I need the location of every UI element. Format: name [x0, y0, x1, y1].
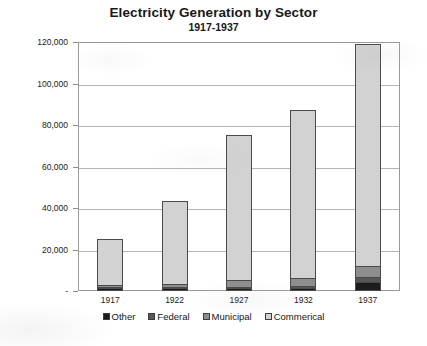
y-axis-tick-labels: -20,00040,00060,00080,000100,000120,000: [0, 42, 78, 291]
legend-item-other[interactable]: Other: [103, 311, 136, 322]
chart-subtitle: 1917-1937: [0, 21, 427, 33]
legend-label: Other: [112, 311, 136, 322]
y-axis-tick-label: 60,000: [42, 162, 68, 172]
y-axis-tick-label: -: [65, 286, 68, 296]
chart-legend: OtherFederalMunicipalCommerical: [0, 311, 427, 322]
stacked-bar[interactable]: [97, 239, 123, 291]
bar-segment-other[interactable]: [98, 289, 122, 290]
bar-segment-other[interactable]: [291, 289, 315, 290]
bar-segment-commerical[interactable]: [291, 111, 315, 278]
bars-layer: [78, 42, 400, 291]
x-axis-tick-labels: 19171922192719321937: [78, 295, 400, 309]
legend-swatch-icon: [265, 313, 272, 320]
x-axis-tick-label: 1922: [165, 295, 184, 305]
chart-figure: Electricity Generation by Sector 1917-19…: [0, 0, 427, 346]
bar-group[interactable]: [355, 42, 381, 291]
y-axis-tick-label: 80,000: [42, 120, 68, 130]
y-axis-tick-label: 120,000: [37, 37, 68, 47]
legend-item-municipal[interactable]: Municipal: [203, 311, 252, 322]
bar-group[interactable]: [97, 42, 123, 291]
legend-label: Municipal: [212, 311, 252, 322]
bar-segment-municipal[interactable]: [227, 281, 251, 288]
x-axis-tick-label: 1937: [358, 295, 377, 305]
legend-label: Commerical: [274, 311, 325, 322]
x-axis-tick-label: 1917: [101, 295, 120, 305]
bar-segment-commerical[interactable]: [163, 202, 187, 285]
bar-segment-municipal[interactable]: [356, 267, 380, 278]
y-axis-tick-label: 20,000: [42, 245, 68, 255]
legend-item-federal[interactable]: Federal: [148, 311, 189, 322]
legend-swatch-icon: [203, 313, 210, 320]
bar-group[interactable]: [290, 42, 316, 291]
y-axis-tick-label: 40,000: [42, 203, 68, 213]
bar-segment-commerical[interactable]: [227, 136, 251, 281]
legend-item-commerical[interactable]: Commerical: [265, 311, 325, 322]
stacked-bar[interactable]: [355, 44, 381, 291]
bar-segment-municipal[interactable]: [291, 279, 315, 287]
bar-group[interactable]: [226, 42, 252, 291]
stacked-bar[interactable]: [226, 135, 252, 291]
chart-title: Electricity Generation by Sector: [0, 5, 427, 20]
x-axis-tick-label: 1927: [230, 295, 249, 305]
bar-segment-other[interactable]: [163, 289, 187, 290]
bar-group[interactable]: [162, 42, 188, 291]
stacked-bar[interactable]: [162, 201, 188, 291]
x-axis-tick-label: 1932: [294, 295, 313, 305]
legend-swatch-icon: [148, 313, 155, 320]
legend-label: Federal: [157, 311, 189, 322]
stacked-bar[interactable]: [290, 110, 316, 291]
y-axis-tick-label: 100,000: [37, 79, 68, 89]
bar-segment-other[interactable]: [227, 289, 251, 290]
y-axis-tick-mark: [73, 291, 78, 292]
legend-swatch-icon: [103, 313, 110, 320]
bar-segment-other[interactable]: [356, 283, 380, 290]
bar-segment-commerical[interactable]: [98, 240, 122, 286]
bar-segment-commerical[interactable]: [356, 45, 380, 266]
